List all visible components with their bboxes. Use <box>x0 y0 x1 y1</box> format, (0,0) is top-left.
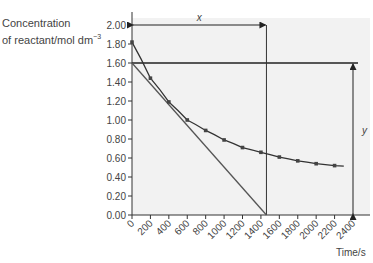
y-tick-label: 1.00 <box>107 115 127 126</box>
x-tick-label: 200 <box>135 217 155 237</box>
x-tick-label: 0 <box>125 217 137 229</box>
x-annotation-label: x <box>196 12 203 23</box>
y-tick-label: 0.20 <box>107 191 127 202</box>
y-tick-label: 0.80 <box>107 134 127 145</box>
y-tick-label: 0.60 <box>107 153 127 164</box>
data-point <box>185 118 189 122</box>
x-tick-label: 1200 <box>223 217 247 241</box>
y-annotation-label: y <box>361 125 368 136</box>
x-tick-label: 2400 <box>334 217 358 241</box>
y-tick-label: 1.40 <box>107 77 127 88</box>
data-point <box>314 162 318 166</box>
y-tick-label: 0.40 <box>107 172 127 183</box>
plot-area <box>132 18 370 215</box>
x-axis-label: Time/s <box>336 247 366 258</box>
y-tick-label: 1.80 <box>107 39 127 50</box>
data-point <box>167 100 171 104</box>
data-point <box>241 146 245 150</box>
data-point <box>296 159 300 163</box>
data-point <box>204 129 208 133</box>
y-tick-label: 2.00 <box>107 20 127 31</box>
x-tick-label: 400 <box>154 217 174 237</box>
x-tick-label: 600 <box>172 217 192 237</box>
data-point <box>130 40 134 44</box>
x-tick-label: 1600 <box>260 217 284 241</box>
x-tick-label: 1000 <box>205 217 229 241</box>
data-point <box>333 164 337 168</box>
y-tick-label: 1.60 <box>107 58 127 69</box>
data-point <box>222 138 226 142</box>
x-tick-label: 2000 <box>297 217 321 241</box>
x-tick-label: 2200 <box>315 217 339 241</box>
data-point <box>278 155 282 159</box>
x-tick-label: 1400 <box>242 217 266 241</box>
chart-svg: 0.000.200.400.600.801.001.201.401.601.80… <box>0 0 373 263</box>
y-tick-label: 1.20 <box>107 96 127 107</box>
data-point <box>259 151 263 155</box>
x-tick-label: 1800 <box>279 217 303 241</box>
y-tick-label: 0.00 <box>107 210 127 221</box>
data-point <box>149 76 153 80</box>
